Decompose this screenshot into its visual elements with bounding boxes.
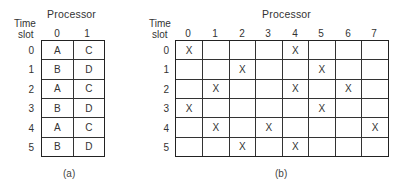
schedule-cell: X (309, 60, 336, 79)
panel-b-col-label: 7 (364, 28, 384, 39)
schedule-cell (256, 137, 283, 156)
panel-b-row-label: 5 (157, 142, 169, 153)
schedule-cell (229, 41, 256, 60)
panel-b-row-header-time: Time (149, 19, 171, 29)
schedule-cell (282, 98, 309, 117)
schedule-cell (362, 41, 389, 60)
panel-b-row-label: 4 (157, 123, 169, 134)
schedule-cell (256, 41, 283, 60)
panel-a-row-label: 5 (22, 142, 34, 153)
panel-b-row-label: 1 (157, 64, 169, 75)
panel-b-row-label: 3 (157, 103, 169, 114)
schedule-cell (309, 118, 336, 137)
schedule-cell (309, 137, 336, 156)
panel-b-col-label: 1 (205, 28, 225, 39)
schedule-cell: X (335, 79, 362, 98)
schedule-cell (176, 60, 203, 79)
table-cell: D (73, 98, 104, 117)
panel-b-col-label: 2 (232, 28, 252, 39)
schedule-cell (362, 137, 389, 156)
schedule-cell (176, 137, 203, 156)
schedule-cell: X (282, 79, 309, 98)
panel-a-col-label: 1 (76, 28, 98, 39)
schedule-cell (256, 79, 283, 98)
panel-a-row-header-slot: slot (18, 30, 34, 40)
schedule-cell (362, 98, 389, 117)
panel-a-col-label: 0 (46, 28, 68, 39)
schedule-cell: X (256, 118, 283, 137)
schedule-cell (309, 41, 336, 60)
schedule-cell (335, 98, 362, 117)
panel-b-grid: X X X X X (175, 40, 389, 157)
panel-b-col-label: 4 (285, 28, 305, 39)
table-cell: C (73, 79, 104, 98)
schedule-cell (309, 79, 336, 98)
schedule-cell: X (229, 60, 256, 79)
schedule-cell (229, 79, 256, 98)
schedule-cell (176, 79, 203, 98)
schedule-cell: X (176, 98, 203, 117)
panel-a-row-header-time: Time (14, 19, 36, 29)
schedule-cell (176, 118, 203, 137)
schedule-cell (203, 60, 230, 79)
panel-b-row-label: 0 (157, 45, 169, 56)
table-row: X X X (176, 79, 388, 98)
panel-a-row-label: 0 (22, 45, 34, 56)
table-row: A C (42, 79, 104, 98)
table-cell: C (73, 41, 104, 60)
schedule-cell (282, 60, 309, 79)
panel-b-row-header-slot: slot (152, 30, 168, 40)
panel-b-row-label: 2 (157, 84, 169, 95)
table-row: A C (42, 41, 104, 60)
table-row: B D (42, 60, 104, 79)
panel-a-row-label: 4 (22, 123, 34, 134)
table-cell: B (42, 60, 73, 79)
schedule-cell (335, 60, 362, 79)
schedule-cell (335, 137, 362, 156)
schedule-cell (203, 41, 230, 60)
panel-b-title: Processor (262, 9, 311, 20)
schedule-cell (362, 79, 389, 98)
schedule-cell (229, 118, 256, 137)
table-row: X X (176, 60, 388, 79)
panel-a-title: Processor (47, 9, 96, 20)
table-cell: A (42, 41, 73, 60)
panel-b-col-label: 6 (338, 28, 358, 39)
schedule-cell (256, 60, 283, 79)
schedule-cell (203, 98, 230, 117)
schedule-cell (229, 98, 256, 117)
table-cell: C (73, 118, 104, 137)
schedule-cell: X (309, 98, 336, 117)
panel-a-row-label: 3 (22, 103, 34, 114)
schedule-cell (203, 137, 230, 156)
table-row: X X (176, 137, 388, 156)
schedule-cell: X (229, 137, 256, 156)
schedule-cell (335, 41, 362, 60)
panel-b-caption: (b) (275, 168, 287, 179)
panel-a-row-label: 1 (22, 64, 34, 75)
schedule-cell (362, 60, 389, 79)
table-row: A C (42, 118, 104, 137)
schedule-cell: X (203, 79, 230, 98)
panel-b-col-label: 5 (311, 28, 331, 39)
table-row: X X (176, 41, 388, 60)
panel-b-col-label: 0 (178, 28, 198, 39)
panel-b-col-label: 3 (258, 28, 278, 39)
table-cell: D (73, 60, 104, 79)
schedule-cell (282, 118, 309, 137)
schedule-cell: X (362, 118, 389, 137)
table-row: B D (42, 137, 104, 156)
schedule-cell: X (282, 137, 309, 156)
panel-a-row-label: 2 (22, 84, 34, 95)
schedule-cell: X (176, 41, 203, 60)
table-cell: B (42, 98, 73, 117)
panel-a-caption: (a) (63, 168, 75, 179)
panel-a-grid: A C B D A C B D A C B D (41, 40, 105, 157)
schedule-cell: X (203, 118, 230, 137)
schedule-cell: X (282, 41, 309, 60)
table-cell: B (42, 137, 73, 156)
table-cell: A (42, 79, 73, 98)
table-cell: A (42, 118, 73, 137)
table-row: X X X (176, 118, 388, 137)
table-row: B D (42, 98, 104, 117)
